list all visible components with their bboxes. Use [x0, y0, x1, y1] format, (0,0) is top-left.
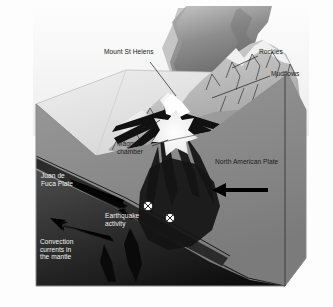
label-earthquake-activity: Earthquake activity [105, 212, 139, 227]
cross-section-illustration [0, 0, 333, 307]
label-ice: Ice [137, 124, 146, 132]
label-rockies: Rockies [259, 48, 283, 56]
diagram-canvas: stockx [0, 0, 333, 307]
label-juan-de-fuca-plate: Juan de Fuca Plate [41, 172, 73, 187]
label-magma-chamber: Magma chamber [117, 140, 143, 155]
label-mount-st-helens: Mount St Helens [104, 48, 154, 56]
label-convection-currents: Convection currents in the mantle [40, 238, 74, 261]
label-north-american-plate: North American Plate [215, 158, 278, 166]
label-mudflows: Mudflows [271, 70, 299, 78]
